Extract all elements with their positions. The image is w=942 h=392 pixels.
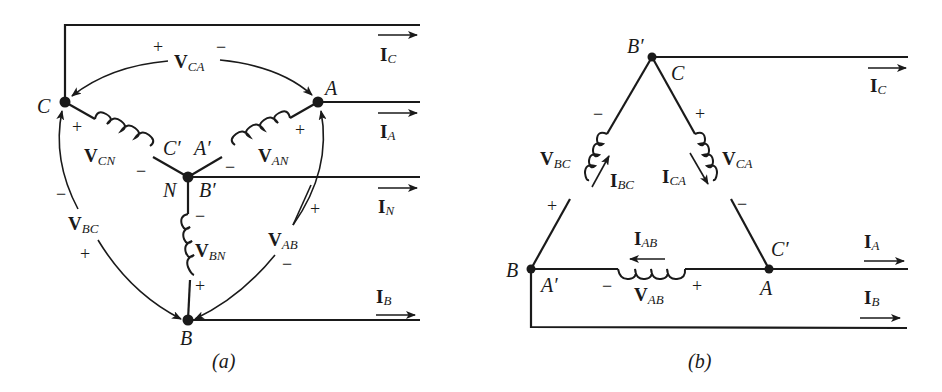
caption-b: (b) bbox=[688, 350, 712, 373]
sign-v-bc-plus: + bbox=[547, 196, 557, 216]
sign-v-ab-plus: + bbox=[310, 199, 320, 219]
label-i-c: IC bbox=[870, 75, 886, 97]
label-node-c: C bbox=[671, 62, 685, 84]
sign-v-bn-minus: − bbox=[195, 206, 205, 226]
node-b bbox=[183, 315, 194, 326]
sign-v-bn-plus: + bbox=[195, 276, 205, 296]
sign-v-an-minus: − bbox=[225, 157, 235, 177]
arc-v-ca-left bbox=[72, 61, 168, 96]
label-node-c-prime: C′ bbox=[163, 137, 181, 159]
label-v-ab: VAB bbox=[268, 229, 298, 252]
node-a bbox=[765, 265, 774, 274]
sign-v-ab-minus: − bbox=[602, 276, 612, 296]
label-v-ab: VAB bbox=[634, 284, 664, 307]
label-node-c-prime: C′ bbox=[771, 238, 789, 260]
node-b bbox=[527, 265, 536, 274]
coil-ab bbox=[531, 269, 769, 279]
label-i-a: IA bbox=[380, 121, 395, 143]
label-node-c: C bbox=[37, 95, 51, 117]
node-a bbox=[313, 97, 324, 108]
sign-v-ca-plus: + bbox=[695, 104, 705, 124]
wire-line-b bbox=[531, 269, 907, 328]
arc-v-bc-bottom bbox=[98, 240, 181, 319]
label-i-ca: ICA bbox=[662, 166, 686, 188]
arrow-i-ca bbox=[690, 153, 708, 184]
label-v-ca: VCA bbox=[722, 148, 752, 171]
label-v-bc: VBC bbox=[68, 213, 99, 236]
sign-v-bc-minus: − bbox=[593, 104, 603, 124]
label-node-n: N bbox=[162, 179, 178, 201]
label-node-a: A bbox=[758, 277, 773, 299]
wye-diagram: C A C′ A′ N B′ B VCA + − VCN + − VAN + −… bbox=[37, 25, 420, 373]
label-i-a: IA bbox=[864, 231, 879, 253]
sign-v-ab-plus: + bbox=[692, 276, 702, 296]
label-node-b: B bbox=[180, 327, 192, 349]
label-v-an: VAN bbox=[258, 145, 290, 168]
sign-v-bc-minus: − bbox=[56, 184, 66, 204]
label-node-b-prime: B′ bbox=[199, 179, 216, 201]
sign-v-bc-plus: + bbox=[80, 244, 90, 264]
label-node-a: A bbox=[323, 77, 338, 99]
sign-v-ca-plus: + bbox=[153, 37, 163, 57]
label-v-cn: VCN bbox=[84, 145, 116, 168]
sign-v-cn-plus: + bbox=[72, 117, 82, 137]
label-i-n: IN bbox=[378, 196, 395, 218]
arc-v-ab-mid bbox=[293, 185, 311, 225]
label-i-c: IC bbox=[380, 44, 396, 66]
sign-v-cn-minus: − bbox=[136, 161, 146, 181]
arrow-i-bc bbox=[592, 156, 609, 187]
arc-v-ab-bottom bbox=[195, 255, 275, 319]
label-v-bn: VBN bbox=[195, 240, 227, 263]
label-i-ab: IAB bbox=[634, 228, 657, 250]
sign-v-ca-minus: − bbox=[216, 37, 226, 57]
label-node-a-prime: A′ bbox=[192, 137, 211, 159]
label-node-b: B bbox=[506, 259, 518, 281]
label-node-a-prime: A′ bbox=[539, 274, 558, 296]
label-node-b-prime: B′ bbox=[627, 35, 644, 57]
label-i-bc: IBC bbox=[610, 170, 634, 192]
arc-v-ca-right bbox=[220, 60, 312, 95]
delta-diagram: B′ C B A′ C′ A VBC − + IBC VCA + − ICA I… bbox=[506, 35, 908, 373]
caption-a: (a) bbox=[212, 350, 236, 373]
coil-bn bbox=[181, 177, 194, 320]
label-v-ca: VCA bbox=[174, 51, 204, 74]
label-i-b: IB bbox=[376, 286, 391, 308]
sign-v-ab-minus: − bbox=[282, 254, 292, 274]
label-v-bc: VBC bbox=[540, 148, 571, 171]
sign-v-ca-minus: − bbox=[737, 194, 747, 214]
node-n bbox=[183, 172, 194, 183]
node-b-prime bbox=[648, 53, 657, 62]
label-i-b: IB bbox=[864, 287, 879, 309]
sign-v-an-plus: + bbox=[295, 120, 305, 140]
node-c bbox=[60, 97, 71, 108]
